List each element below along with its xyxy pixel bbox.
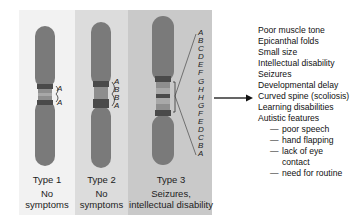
effect-line: intellectual disability [126,199,216,210]
type2-letters: A B B A [114,78,119,110]
subitem-text: need for routine [282,168,342,178]
effect-line: symptoms [19,199,75,210]
symptom-item: Curved spine (scoliosis) [258,91,349,102]
effect-line: No [75,188,128,199]
type1-caption: Type 1 No symptoms [19,174,75,210]
letter: A [57,98,62,108]
dash: — [270,135,282,146]
subitem-continuation: contact [258,157,349,168]
letter: A [114,102,119,110]
type-label: Type 2 [75,174,128,185]
type1-letters: A A [57,84,62,108]
dash: — [270,168,282,179]
subitem-text: hand flapping [282,135,334,145]
right-arrow-icon [214,95,253,102]
chromosome-type2 [91,22,115,168]
subitem-text: poor speech [282,124,329,134]
dash: — [270,124,282,135]
subitem-text: lack of eye [282,146,323,156]
autistic-subitem: —need for routine [258,168,349,179]
symptom-item: Small size [258,47,349,58]
chromosome-type1 [35,26,58,166]
symptom-item: Epicanthal folds [258,36,349,47]
autistic-subitem: —lack of eye [258,146,349,157]
effect-line: symptoms [75,199,128,210]
chromosome-type3 [152,16,196,165]
symptom-item: Poor muscle tone [258,25,349,36]
type-label: Type 3 [126,174,216,185]
symptom-item: Learning disabilities [258,102,349,113]
symptom-item: Autistic features [258,113,349,124]
autistic-subitem: —hand flapping [258,135,349,146]
symptom-list: Poor muscle tone Epicanthal folds Small … [258,25,349,179]
type2-caption: Type 2 No symptoms [75,174,128,210]
symptom-item: Developmental delay [258,80,349,91]
type-label: Type 1 [19,174,75,185]
dash: — [270,146,282,157]
autistic-subitem: —poor speech [258,124,349,135]
symptom-item: Seizures [258,69,349,80]
effect-line: Seizures, [126,188,216,199]
symptom-item: Intellectual disability [258,58,349,69]
type3-caption: Type 3 Seizures, intellectual disability [126,174,216,210]
letter: A [57,84,62,94]
letter: A [198,150,204,158]
effect-line: No [19,188,75,199]
type3-letters: A B C D E F G H H G F E D C B A [198,29,204,159]
